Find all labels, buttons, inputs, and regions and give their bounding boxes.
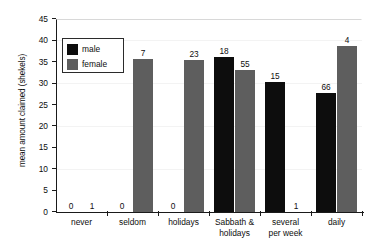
x-axis-label-0: never (56, 217, 107, 228)
y-tick-35: 35 (0, 57, 56, 67)
y-tick-mark (52, 147, 56, 148)
y-tick-label: 30 (39, 78, 48, 88)
bar-value-label-female-3: 55 (229, 59, 261, 69)
x-axis-label-1: seldom (107, 217, 158, 228)
x-axis-end-tick (362, 211, 363, 216)
y-tick-5: 5 (0, 185, 56, 195)
bar-value-label-female-0: 1 (76, 201, 108, 211)
y-tick-mark (52, 18, 56, 19)
y-tick-mark (52, 125, 56, 126)
y-tick-30: 30 (0, 78, 56, 88)
bar-female-2 (184, 60, 204, 211)
y-tick-label: 15 (39, 142, 48, 152)
bar-value-label-female-1: 7 (127, 48, 159, 58)
chart-legend: male female (62, 38, 124, 73)
bar-value-label-female-5: 4 (331, 35, 363, 45)
x-axis-label-4: severalper week (260, 217, 311, 238)
bar-value-label-female-2: 23 (178, 49, 210, 59)
y-tick-label: 40 (39, 35, 48, 45)
x-axis-separator (311, 211, 312, 216)
x-label-line: seldom (107, 217, 158, 228)
x-label-line: daily (311, 217, 362, 228)
y-tick-label: 10 (39, 164, 48, 174)
y-tick-label: 35 (39, 57, 48, 67)
y-tick-10: 10 (0, 164, 56, 174)
x-label-line: per week (260, 228, 311, 239)
x-axis-label-3: Sabbath &holidays (209, 217, 260, 238)
bar-male-5 (316, 93, 336, 211)
bar-female-3 (235, 70, 255, 212)
bar-male-4 (265, 82, 285, 212)
y-tick-mark (52, 40, 56, 41)
legend-swatch-female-icon (67, 59, 78, 70)
y-tick-mark (52, 104, 56, 105)
y-tick-mark (52, 211, 56, 212)
legend-swatch-male-icon (67, 44, 78, 55)
y-tick-mark (52, 190, 56, 191)
x-label-line: holidays (158, 217, 209, 228)
x-label-line: holidays (209, 228, 260, 239)
x-axis-label-2: holidays (158, 217, 209, 228)
bar-female-1 (133, 59, 153, 211)
legend-label-male: male (82, 44, 100, 55)
bar-value-label-male-3: 18 (208, 46, 240, 56)
x-axis-separator (260, 211, 261, 216)
y-tick-mark (52, 83, 56, 84)
x-axis-label-5: daily (311, 217, 362, 228)
y-tick-label: 25 (39, 100, 48, 110)
x-axis-separator (107, 211, 108, 216)
bar-female-5 (337, 46, 357, 212)
y-tick-40: 40 (0, 35, 56, 45)
x-axis-separator (209, 211, 210, 216)
y-tick-label: 0 (43, 207, 48, 217)
y-tick-0: 0 (0, 207, 56, 217)
x-label-line: several (260, 217, 311, 228)
bar-value-label-female-4: 1 (280, 201, 312, 211)
bar-chart: mean amount claimed (shekels) 4540353025… (0, 0, 374, 249)
y-tick-label: 45 (39, 14, 48, 24)
bar-male-3 (214, 57, 234, 212)
legend-label-female: female (82, 59, 107, 70)
y-tick-45: 45 (0, 14, 56, 24)
y-tick-mark (52, 168, 56, 169)
y-tick-label: 20 (39, 121, 48, 131)
y-tick-label: 5 (43, 185, 48, 195)
y-tick-20: 20 (0, 121, 56, 131)
y-tick-mark (52, 61, 56, 62)
x-axis-separator (158, 211, 159, 216)
y-tick-25: 25 (0, 100, 56, 110)
x-label-line: never (56, 217, 107, 228)
y-tick-15: 15 (0, 142, 56, 152)
bar-value-label-male-4: 15 (259, 71, 291, 81)
x-label-line: Sabbath & (209, 217, 260, 228)
